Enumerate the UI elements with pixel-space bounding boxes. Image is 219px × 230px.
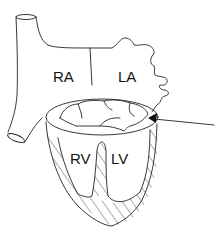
superior-vena-cava-opening	[16, 15, 36, 20]
valve-annulus-outer	[46, 99, 158, 135]
av-valve-ring	[46, 99, 158, 135]
label-right-ventricle: RV	[70, 150, 91, 167]
valve-leaflets	[60, 100, 148, 131]
atria-top-wall	[36, 17, 154, 56]
label-left-atrium: LA	[118, 68, 136, 85]
inferior-vena-cava-opening	[6, 132, 25, 145]
ventricles-outline	[0, 0, 219, 230]
arrowhead-icon	[148, 113, 157, 123]
label-right-atrium: RA	[53, 68, 74, 85]
heart-diagram: RA LA RV LV	[0, 0, 219, 230]
label-left-ventricle: LV	[111, 150, 128, 167]
right-atrium-left-wall	[8, 17, 17, 132]
atria-outline	[6, 15, 168, 145]
interatrial-septum	[90, 48, 92, 85]
left-atrium-right-wall	[151, 56, 169, 112]
